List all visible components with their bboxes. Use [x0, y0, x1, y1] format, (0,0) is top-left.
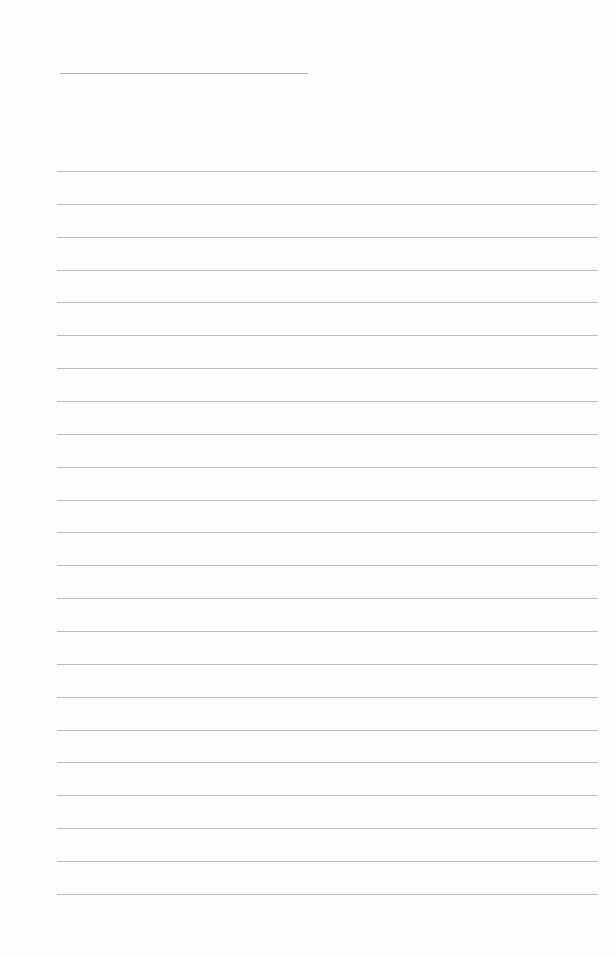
ruled-line — [57, 204, 598, 205]
ruled-line — [57, 861, 598, 862]
ruled-line — [57, 762, 598, 763]
title-underline — [60, 73, 308, 74]
ruled-line — [57, 697, 598, 698]
ruled-line — [57, 401, 598, 402]
lined-paper-page — [0, 0, 616, 957]
ruled-line — [57, 335, 598, 336]
ruled-line — [57, 270, 598, 271]
ruled-line — [57, 730, 598, 731]
ruled-line — [57, 894, 598, 895]
ruled-line — [57, 302, 598, 303]
ruled-line — [57, 664, 598, 665]
ruled-line — [57, 237, 598, 238]
ruled-line — [57, 631, 598, 632]
ruled-line — [57, 467, 598, 468]
ruled-line — [57, 368, 598, 369]
ruled-line — [57, 171, 598, 172]
ruled-line — [57, 795, 598, 796]
ruled-line — [57, 598, 598, 599]
ruled-line — [57, 500, 598, 501]
ruled-line — [57, 828, 598, 829]
ruled-line — [57, 532, 598, 533]
ruled-line — [57, 434, 598, 435]
ruled-line — [57, 565, 598, 566]
